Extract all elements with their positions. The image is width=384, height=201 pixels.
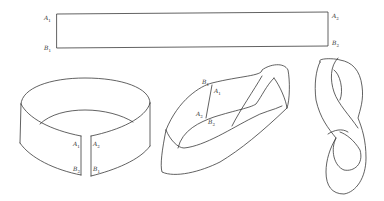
twist-label-b2: B2: [207, 118, 215, 127]
ring-front-top-left: [21, 104, 81, 136]
mobius-outline: [315, 59, 366, 194]
ring-label-right-bottom: B1: [92, 165, 100, 174]
join-segment: [206, 85, 212, 118]
twisted-strip: B1 A1 A2 B2: [161, 65, 289, 175]
twist-inner-edge: [166, 106, 282, 148]
mobius-strip: [315, 58, 366, 194]
strip-rectangle: [57, 12, 328, 48]
ring-label-right-top: A2: [92, 140, 100, 149]
label-b1-left: B1: [43, 44, 51, 53]
label-a1-left: A1: [43, 14, 51, 23]
twist-upper-edge: [166, 65, 289, 130]
ring-left-edge: [20, 104, 21, 143]
twist-label-a2: A2: [195, 110, 203, 119]
ring-bottom-left: [20, 143, 81, 175]
ring-label-left-bottom: B2: [72, 165, 80, 174]
ring-front-top-right: [91, 103, 150, 136]
mobius-front-band: [331, 58, 358, 128]
mobius-construction-diagram: A1 B1 A2 B2 A1 B2 A2 B1: [0, 0, 384, 201]
open-ring: A1 B2 A2 B1: [20, 78, 150, 176]
mobius-crossing: [328, 130, 348, 134]
ring-label-left-top: A1: [72, 140, 80, 149]
label-b2-right: B2: [331, 39, 339, 48]
label-a2-right: A2: [331, 12, 339, 21]
ring-outer-rim: [21, 78, 150, 104]
twist-fold: [232, 76, 262, 126]
mobius-lower-inner: [333, 132, 361, 170]
twist-middle-edge: [178, 78, 274, 148]
twist-label-a1: A1: [213, 87, 221, 96]
twist-back-edge: [274, 78, 287, 108]
flat-strip: A1 B1 A2 B2: [43, 12, 339, 53]
ring-inner-rim: [40, 110, 133, 124]
